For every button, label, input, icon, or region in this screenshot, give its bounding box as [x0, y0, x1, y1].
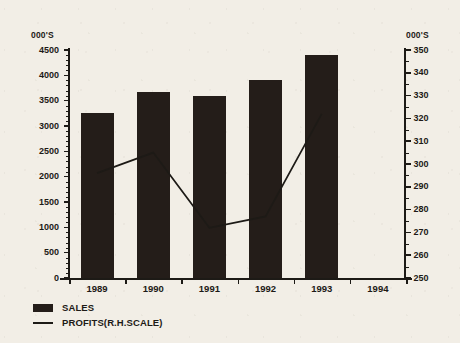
x-axis-label: 1989 [70, 283, 124, 294]
legend-item-sales: SALES [33, 300, 163, 315]
left-tick-label: 3000 [0, 122, 59, 131]
left-tick-label: 3500 [0, 96, 59, 105]
x-axis-line [60, 278, 412, 280]
left-tick-label: 0 [0, 274, 59, 283]
left-axis-unit-label: 000'S [31, 30, 54, 40]
right-axis-unit-label: 000'S [406, 30, 429, 40]
x-axis-label: 1991 [182, 283, 236, 294]
left-tick-label: 2000 [0, 172, 59, 181]
left-tick-label: 500 [0, 248, 59, 257]
right-tick-label: 280 [414, 205, 429, 214]
chart-legend: SALES PROFITS(R.H.SCALE) [33, 300, 163, 330]
profits-polyline [97, 114, 322, 228]
right-tick-label: 270 [414, 228, 429, 237]
right-tick-label: 290 [414, 182, 429, 191]
left-tick-label: 1500 [0, 198, 59, 207]
right-tick-label: 250 [414, 274, 429, 283]
x-axis-label: 1994 [351, 283, 405, 294]
left-tick-label: 2500 [0, 147, 59, 156]
legend-item-profits: PROFITS(R.H.SCALE) [33, 315, 163, 330]
right-tick-label: 320 [414, 114, 429, 123]
right-tick-label: 260 [414, 251, 429, 260]
profits-line-series [69, 50, 406, 278]
x-axis-label: 1990 [126, 283, 180, 294]
left-tick-label: 1000 [0, 223, 59, 232]
right-tick-label: 350 [414, 46, 429, 55]
legend-label-profits: PROFITS(R.H.SCALE) [62, 317, 163, 328]
plot-area [69, 50, 406, 278]
right-tick-label: 300 [414, 160, 429, 169]
legend-line-icon [33, 322, 53, 324]
left-tick-label: 4500 [0, 46, 59, 55]
right-tick-label: 330 [414, 91, 429, 100]
right-tick-label: 340 [414, 68, 429, 77]
legend-swatch-icon [33, 304, 53, 312]
x-axis-label: 1992 [239, 283, 293, 294]
legend-label-sales: SALES [62, 302, 94, 313]
x-axis-label: 1993 [295, 283, 349, 294]
chart-page: 000'S 000'S 0500100015002000250030003500… [0, 0, 460, 343]
left-tick-label: 4000 [0, 71, 59, 80]
right-tick-label: 310 [414, 137, 429, 146]
